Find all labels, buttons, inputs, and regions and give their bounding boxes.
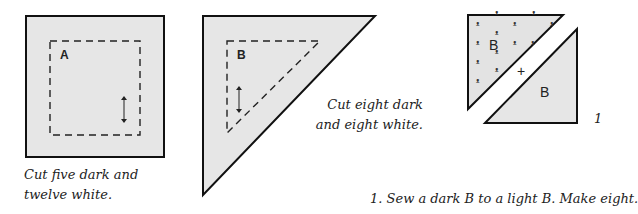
light-b-label: B [540,84,549,100]
svg-text:ᵜ: ᵜ [513,20,517,30]
instruction-step-1: 1. Sew a dark B to a light B. Make eight… [370,189,638,209]
svg-text:ᵜ: ᵜ [476,58,480,68]
svg-text:ᵜ: ᵜ [495,66,499,76]
dark-b-label: B [489,37,498,53]
triangle-b-caption-line1: Cut eight dark [313,95,423,115]
join-plus: + [517,63,525,79]
square-a-template: A [26,16,164,157]
triangle-b-caption: Cut eight dark and eight white. [313,95,423,135]
svg-text:ᵜ: ᵜ [495,9,499,19]
square-a-label: A [60,48,69,62]
square-a-caption: Cut five dark and twelve white. [24,165,174,205]
step-number: 1 [594,109,602,129]
triangle-b-label: B [237,48,246,62]
triangle-b-caption-line2: and eight white. [313,115,423,135]
svg-text:ᵜ: ᵜ [476,39,480,49]
svg-text:ᵜ: ᵜ [476,77,480,87]
svg-text:ᵜ: ᵜ [513,39,517,49]
svg-text:ᵜ: ᵜ [532,9,536,19]
svg-text:ᵜ: ᵜ [550,20,554,30]
assembly-diagram: ᵜᵜ ᵜᵜᵜ ᵜ ᵜᵜᵜ ᵜ ᵜᵜ ᵜ B + B [468,9,577,123]
svg-text:ᵜ: ᵜ [531,39,535,49]
svg-text:ᵜ: ᵜ [476,20,480,30]
